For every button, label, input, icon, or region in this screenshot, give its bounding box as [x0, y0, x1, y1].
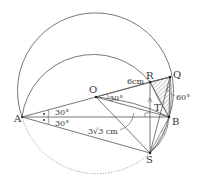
- label-Q: Q: [173, 69, 181, 80]
- label-T: T: [154, 102, 161, 113]
- segment-OS: [96, 97, 150, 153]
- diagram-canvas: A O R Q B S T 6cm 30° 30° 30° 3√3 cm 60°: [0, 0, 208, 192]
- label-A: A: [13, 113, 22, 124]
- label-angle-O: 30°: [109, 94, 123, 103]
- label-6cm: 6cm: [127, 77, 145, 86]
- angle-dot-lower: [43, 119, 45, 121]
- label-B: B: [172, 116, 179, 127]
- point-R: [149, 81, 152, 84]
- label-angle-A-upper: 30°: [55, 108, 69, 117]
- label-3root3cm: 3√3 cm: [88, 127, 118, 136]
- geometry-diagram: A O R Q B S T 6cm 30° 30° 30° 3√3 cm 60°: [0, 0, 208, 192]
- angle-dot-upper: [43, 113, 45, 115]
- label-angle-Q: 60°: [176, 93, 190, 102]
- angle-arc-A-lower: [48, 117, 49, 124]
- angle-arc-A-upper: [48, 110, 49, 117]
- right-angle-mark: [145, 113, 150, 117]
- hatched-region-lower: [150, 117, 169, 153]
- label-O: O: [89, 84, 97, 95]
- point-O: [95, 96, 98, 99]
- label-angle-A-lower: 30°: [55, 119, 69, 128]
- point-B: [168, 116, 171, 119]
- outer-circle-dotted: [22, 117, 150, 174]
- label-S: S: [146, 154, 153, 165]
- point-Q: [169, 76, 172, 79]
- leader-3root3: [120, 113, 134, 130]
- label-R: R: [146, 70, 154, 81]
